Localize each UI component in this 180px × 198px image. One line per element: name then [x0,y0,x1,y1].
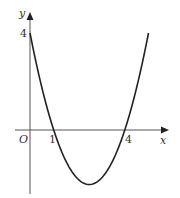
x-tick-label-1: 1 [49,133,56,146]
x-axis-arrow-icon [161,127,169,134]
origin-label: O [19,133,28,146]
y-axis-arrow-icon [27,12,34,20]
graph: y 4 O 1 4 x [0,0,180,198]
parabola-curve [30,33,149,185]
x-tick-label-4: 4 [125,133,132,146]
y-axis-label: y [18,7,26,20]
y-tick-label-4: 4 [20,27,27,40]
x-axis-label: x [160,134,167,147]
